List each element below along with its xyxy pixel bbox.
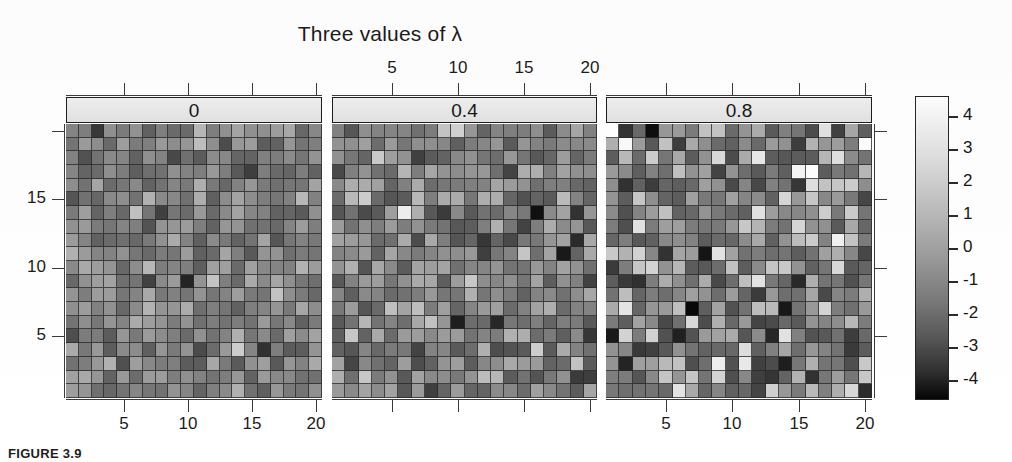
- heatmap-cell: [779, 343, 792, 357]
- heatmap-cell: [232, 124, 245, 138]
- heatmap-cell: [92, 138, 105, 152]
- heatmap-cell: [792, 247, 805, 261]
- heatmap-cell: [491, 220, 504, 234]
- heatmap-cell: [181, 288, 194, 302]
- heatmap-cell: [686, 165, 699, 179]
- heatmap-cell: [412, 138, 425, 152]
- heatmap-cell: [451, 371, 464, 385]
- heatmap-cell: [465, 275, 478, 289]
- top-axis-tick: [458, 83, 459, 95]
- heatmap-cell: [766, 151, 779, 165]
- heatmap-cell: [544, 261, 557, 275]
- x-axis-tick-label: 20: [835, 414, 895, 434]
- heatmap-cell: [673, 179, 686, 193]
- heatmap-cell: [819, 384, 832, 398]
- heatmap-cell: [66, 206, 79, 220]
- heatmap-cell: [271, 261, 284, 275]
- heatmap-cell: [686, 261, 699, 275]
- heatmap-cell: [385, 124, 398, 138]
- heatmap-cell: [385, 151, 398, 165]
- heatmap-cell: [130, 261, 143, 275]
- heatmap-cell: [66, 316, 79, 330]
- heatmap-cell: [859, 206, 872, 220]
- heatmap-cell: [859, 151, 872, 165]
- heatmap-cell: [712, 316, 725, 330]
- heatmap-cell: [633, 247, 646, 261]
- heatmap-cell: [438, 179, 451, 193]
- y-axis-tick: [52, 131, 64, 132]
- heatmap-cell: [332, 384, 345, 398]
- heatmap-cell: [726, 316, 739, 330]
- heatmap-cell: [859, 357, 872, 371]
- heatmap-cell: [207, 234, 220, 248]
- heatmap-cell: [258, 288, 271, 302]
- heatmap-cell: [633, 275, 646, 289]
- heatmap-cell: [258, 220, 271, 234]
- heatmap-cell: [168, 302, 181, 316]
- heatmap-cell: [699, 288, 712, 302]
- heatmap-cell: [156, 234, 169, 248]
- heatmap-cell: [117, 247, 130, 261]
- heatmap-cell: [673, 234, 686, 248]
- heatmap-cell: [845, 179, 858, 193]
- heatmap-cell: [699, 371, 712, 385]
- heatmap-cell: [518, 138, 531, 152]
- heatmap-cell: [832, 329, 845, 343]
- heatmap-cell: [130, 220, 143, 234]
- heatmap-cell: [359, 124, 372, 138]
- heatmap-cell: [168, 316, 181, 330]
- heatmap-cell: [220, 316, 233, 330]
- heatmap-cell: [806, 329, 819, 343]
- heatmap-cell: [130, 384, 143, 398]
- heatmap-cell: [345, 357, 358, 371]
- x-axis-tick: [124, 400, 125, 412]
- heatmap-cell: [438, 165, 451, 179]
- top-axis-tick: [590, 83, 591, 95]
- heatmap-cell: [845, 316, 858, 330]
- heatmap-cell: [766, 206, 779, 220]
- heatmap-cell: [633, 165, 646, 179]
- heatmap-cell: [425, 275, 438, 289]
- heatmap-cell: [296, 316, 309, 330]
- heatmap-cell: [504, 220, 517, 234]
- heatmap-cell: [385, 384, 398, 398]
- heatmap-cell: [832, 316, 845, 330]
- heatmap-cell: [220, 343, 233, 357]
- heatmap-cell: [673, 357, 686, 371]
- heatmap-cell: [633, 302, 646, 316]
- heatmap-cell: [659, 357, 672, 371]
- colorbar-tick: [949, 281, 958, 283]
- heatmap-cell: [832, 384, 845, 398]
- heatmap-cell: [156, 316, 169, 330]
- heatmap-cell: [156, 192, 169, 206]
- heatmap-cell: [309, 192, 322, 206]
- heatmap-cell: [819, 206, 832, 220]
- heatmap-cell: [686, 275, 699, 289]
- heatmap-cell: [207, 302, 220, 316]
- heatmap-cell: [296, 275, 309, 289]
- heatmap-cell: [845, 261, 858, 275]
- heatmap-cell: [845, 329, 858, 343]
- heatmap-cell: [181, 151, 194, 165]
- heatmap-cell: [845, 371, 858, 385]
- heatmap-cell: [79, 371, 92, 385]
- heatmap-cell: [359, 192, 372, 206]
- heatmap-cell: [232, 165, 245, 179]
- heatmap-cell: [271, 151, 284, 165]
- heatmap-cell: [168, 165, 181, 179]
- heatmap-cell: [504, 371, 517, 385]
- heatmap-cell: [606, 192, 619, 206]
- heatmap-cell: [845, 275, 858, 289]
- heatmap-cell: [571, 384, 584, 398]
- heatmap-cell: [766, 343, 779, 357]
- heatmap-cell: [451, 220, 464, 234]
- heatmap-cell: [168, 220, 181, 234]
- heatmap-cell: [271, 384, 284, 398]
- heatmap-cell: [438, 138, 451, 152]
- heatmap-cell: [779, 138, 792, 152]
- heatmap-cell: [806, 357, 819, 371]
- heatmap-cell: [309, 357, 322, 371]
- heatmap-cell: [296, 192, 309, 206]
- top-axis-tick: [524, 83, 525, 95]
- heatmap-cell: [633, 329, 646, 343]
